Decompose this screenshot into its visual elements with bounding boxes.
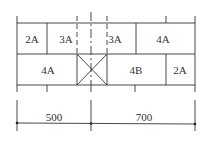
dimension-label: 500	[46, 111, 63, 123]
room-label: 3A	[59, 33, 72, 45]
dimension-line	[17, 123, 195, 124]
room-label: 2A	[25, 33, 38, 45]
room-label: 3A	[108, 33, 121, 45]
room-label: 2A	[173, 64, 186, 76]
room-label: 4A	[156, 33, 169, 45]
room-label: 4A	[41, 64, 54, 76]
dimension-label: 700	[136, 111, 153, 123]
room-label: 4B	[130, 64, 143, 76]
